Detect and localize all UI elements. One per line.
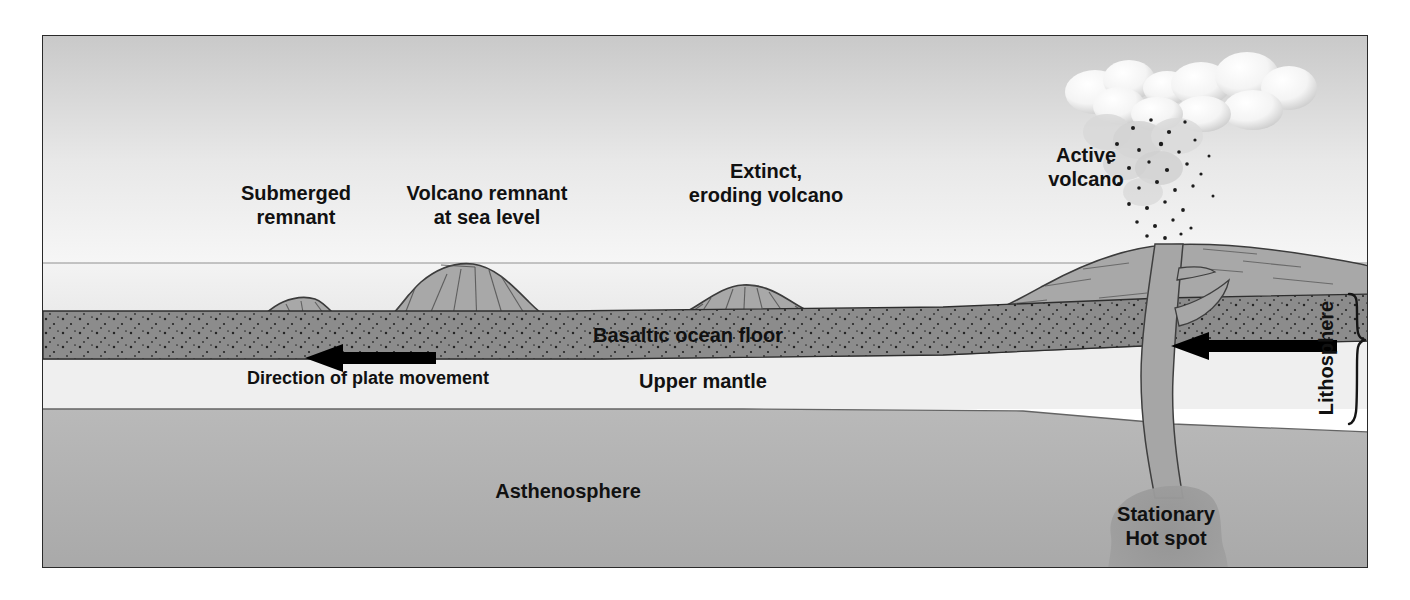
label-volcano-remnant-line2: at sea level bbox=[434, 206, 541, 228]
label-direction-of-plate-movement: Direction of plate movement bbox=[247, 368, 489, 388]
label-volcano-remnant-line1: Volcano remnant bbox=[407, 182, 568, 204]
label-lithosphere: Lithosphere bbox=[1315, 301, 1337, 415]
label-submerged-remnant-line2: remnant bbox=[257, 206, 336, 228]
label-hot-spot-line1: Stationary bbox=[1117, 503, 1216, 525]
label-extinct-volcano-line2: eroding volcano bbox=[689, 184, 843, 206]
label-active-volcano-line2: volcano bbox=[1048, 168, 1124, 190]
label-asthenosphere: Asthenosphere bbox=[495, 480, 641, 502]
label-active-volcano-line1: Active bbox=[1056, 144, 1116, 166]
label-submerged-remnant-line1: Submerged bbox=[241, 182, 351, 204]
label-extinct-volcano-line1: Extinct, bbox=[730, 160, 802, 182]
cross-section-illustration: Submerged remnant Volcano remnant at sea… bbox=[43, 36, 1368, 568]
label-basaltic-ocean-floor: Basaltic ocean floor bbox=[593, 324, 783, 346]
label-upper-mantle: Upper mantle bbox=[639, 370, 767, 392]
diagram-frame: Submerged remnant Volcano remnant at sea… bbox=[42, 35, 1368, 568]
cloud-puff bbox=[1223, 90, 1283, 130]
label-hot-spot-line2: Hot spot bbox=[1125, 527, 1206, 549]
diagram-stage: Submerged remnant Volcano remnant at sea… bbox=[0, 0, 1410, 600]
cloud-puff bbox=[1151, 118, 1203, 154]
